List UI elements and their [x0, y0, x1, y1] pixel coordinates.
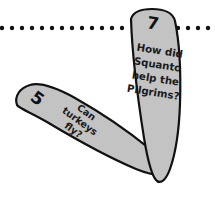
divider-dot: [60, 26, 64, 30]
divider-dot: [70, 26, 74, 30]
divider-dot: [196, 26, 200, 30]
divider-dot: [110, 26, 114, 30]
divider-dot: [90, 26, 94, 30]
divider-dot: [10, 26, 14, 30]
worksheet-page: 5 Can turkeys fly? 7 How did Squanto hel…: [0, 0, 215, 201]
dotted-divider: [0, 26, 210, 30]
divider-dot: [20, 26, 24, 30]
divider-dot: [50, 26, 54, 30]
divider-dot: [120, 26, 124, 30]
divider-dot: [100, 26, 104, 30]
divider-dot: [30, 26, 34, 30]
divider-dot: [40, 26, 44, 30]
divider-dot: [206, 26, 210, 30]
divider-dot: [186, 26, 190, 30]
divider-dot: [0, 26, 4, 30]
divider-dot: [80, 26, 84, 30]
illustration-canvas: 5 Can turkeys fly? 7 How did Squanto hel…: [0, 0, 215, 201]
